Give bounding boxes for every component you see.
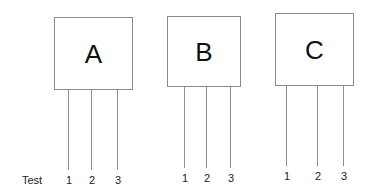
component-a-lead-3-label: 3 xyxy=(115,174,121,186)
component-b-lead-1 xyxy=(184,87,185,168)
component-b-label: B xyxy=(195,39,212,65)
component-a-lead-2 xyxy=(91,90,92,170)
component-c-lead-2 xyxy=(317,86,318,166)
component-c-lead-1-label: 1 xyxy=(284,170,290,182)
component-a-box: A xyxy=(54,17,133,90)
component-a-lead-1-label: 1 xyxy=(66,174,72,186)
component-a-lead-2-label: 2 xyxy=(89,174,95,186)
component-c-lead-3-label: 3 xyxy=(341,170,347,182)
component-a-label: A xyxy=(85,41,102,67)
component-b-lead-3-label: 3 xyxy=(228,172,234,184)
component-c-lead-1 xyxy=(286,86,287,166)
component-c-lead-3 xyxy=(343,86,344,166)
component-c-lead-2-label: 2 xyxy=(315,170,321,182)
component-b-lead-2 xyxy=(206,87,207,168)
component-c-box: C xyxy=(275,13,354,86)
component-b-box: B xyxy=(167,16,241,87)
component-b-lead-3 xyxy=(230,87,231,168)
component-a-lead-3 xyxy=(117,90,118,170)
component-a-lead-1 xyxy=(68,90,69,170)
component-b-lead-1-label: 1 xyxy=(182,172,188,184)
component-c-label: C xyxy=(305,37,324,63)
test-row-label: Test xyxy=(22,174,42,186)
component-b-lead-2-label: 2 xyxy=(204,172,210,184)
